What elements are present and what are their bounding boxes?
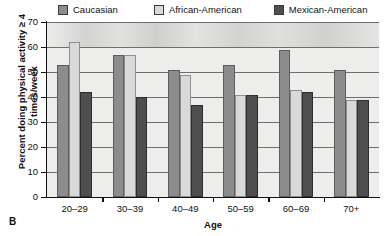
bar-5059-mexican-american	[246, 95, 258, 198]
y-axis-tick	[41, 147, 47, 148]
figure-panel: CaucasianAfrican-AmericanMexican-America…	[0, 0, 385, 236]
y-axis-tick	[41, 197, 47, 198]
gridline	[47, 147, 379, 148]
x-axis-tick	[213, 197, 214, 202]
x-axis-tick	[268, 197, 269, 202]
legend-label: African-American	[169, 5, 242, 15]
legend-swatch-icon	[154, 5, 164, 15]
bar-3039-caucasian	[113, 55, 125, 198]
y-axis-tick	[41, 122, 47, 123]
plot-area	[47, 22, 379, 197]
x-axis-title: Age	[47, 219, 379, 230]
bar-6069-caucasian	[279, 50, 291, 198]
bar-3039-mexican-american	[136, 97, 148, 197]
legend-item-caucasian: Caucasian	[58, 5, 118, 15]
bar-6069-mexican-american	[302, 92, 314, 197]
bar-70+-caucasian	[334, 70, 346, 198]
x-axis-tick	[102, 197, 103, 202]
gridline	[47, 122, 379, 123]
bar-2029-african-american	[69, 42, 81, 197]
legend-label: Mexican-American	[289, 5, 368, 15]
x-axis-category-label: 50–59	[213, 204, 268, 214]
bar-4049-mexican-american	[191, 105, 203, 198]
bar-5059-african-american	[235, 95, 247, 198]
x-axis-category-label: 40–49	[158, 204, 213, 214]
bar-2029-mexican-american	[80, 92, 92, 197]
x-axis-category-label: 30–39	[102, 204, 157, 214]
gridline	[47, 22, 379, 23]
legend-item-mexican-american: Mexican-American	[274, 5, 368, 15]
legend-swatch-icon	[274, 5, 284, 15]
chart-legend: CaucasianAfrican-AmericanMexican-America…	[58, 2, 380, 17]
y-axis-tick	[41, 22, 47, 23]
x-axis-category-label: 70+	[324, 204, 379, 214]
y-axis-tick	[41, 72, 47, 73]
bar-4049-african-american	[180, 75, 192, 198]
y-axis-tick	[41, 97, 47, 98]
legend-label: Caucasian	[73, 5, 118, 15]
bar-4049-caucasian	[168, 70, 180, 198]
bar-6069-african-american	[290, 90, 302, 198]
bar-5059-caucasian	[223, 65, 235, 198]
x-axis-category-label: 20–29	[47, 204, 102, 214]
gridline	[47, 47, 379, 48]
gridline	[47, 172, 379, 173]
panel-label: B	[9, 216, 16, 227]
bar-70+-african-american	[346, 100, 358, 198]
x-axis-tick	[158, 197, 159, 202]
y-axis-tick-label: 0	[14, 192, 38, 202]
y-axis-title: Percent doing physical activity ≥ 4 time…	[16, 12, 39, 172]
scan-bleedthrough-artifact	[47, 22, 379, 48]
x-axis-category-label: 60–69	[268, 204, 323, 214]
y-axis-tick	[41, 172, 47, 173]
gridline	[47, 97, 379, 98]
bar-70+-mexican-american	[357, 100, 369, 198]
legend-item-african-american: African-American	[154, 5, 242, 15]
gridline	[47, 72, 379, 73]
x-axis-tick	[324, 197, 325, 202]
bar-3039-african-american	[124, 55, 136, 198]
legend-swatch-icon	[58, 5, 68, 15]
y-axis-tick	[41, 47, 47, 48]
bar-2029-caucasian	[57, 65, 69, 198]
